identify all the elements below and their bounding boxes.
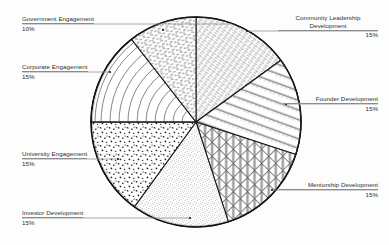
callout-government-engagement[interactable]: Government Engagement 10% — [22, 15, 94, 32]
callout-percent-founder-development: 15% — [283, 105, 378, 113]
callout-percent-investor-development: 15% — [22, 219, 83, 227]
callout-label-corporate-engagement: Corporate Engagement — [22, 63, 88, 71]
callout-label-investor-development: Investor Development — [22, 209, 83, 217]
callout-label-founder-development: Founder Development — [283, 95, 378, 103]
callout-percent-corporate-engagement: 15% — [22, 73, 88, 81]
callout-label-government-engagement: Government Engagement — [22, 15, 94, 23]
callout-percent-university-engagement: 15% — [22, 160, 87, 168]
callout-percent-community-leadership-development: 15% — [278, 31, 378, 39]
callout-mentorship-development[interactable]: Mentorship Development 15% — [279, 181, 378, 198]
callout-community-leadership-development[interactable]: Community Leadership Development 15% — [278, 14, 378, 39]
callout-percent-mentorship-development: 15% — [279, 191, 378, 199]
anchor-dot-mentorship-development — [271, 189, 273, 191]
anchor-dot-government-engagement — [162, 29, 164, 31]
callout-label-community-leadership-development-line2: Development — [278, 22, 378, 30]
callout-label-university-engagement: University Engagement — [22, 150, 87, 158]
anchor-dot-community-leadership-development — [246, 30, 248, 32]
callout-corporate-engagement[interactable]: Corporate Engagement 15% — [22, 63, 88, 80]
callout-percent-government-engagement: 10% — [22, 25, 94, 33]
anchor-dot-university-engagement — [117, 158, 119, 160]
anchor-dot-investor-development — [189, 217, 191, 219]
callout-label-community-leadership-development: Community Leadership — [278, 14, 378, 22]
pie-chart-figure: Government Engagement 10% Corporate Enga… — [0, 0, 389, 245]
anchor-dot-corporate-engagement — [109, 71, 111, 73]
callout-investor-development[interactable]: Investor Development 15% — [22, 209, 83, 226]
callout-university-engagement[interactable]: University Engagement 15% — [22, 150, 87, 167]
callout-founder-development[interactable]: Founder Development 15% — [283, 95, 378, 112]
callout-label-mentorship-development: Mentorship Development — [279, 181, 378, 189]
